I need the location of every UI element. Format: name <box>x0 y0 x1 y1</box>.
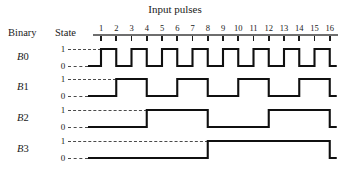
timing-diagram-figure: Input pulses Binary State 12345678910111… <box>0 0 347 170</box>
waveform-trace-b3 <box>0 0 347 170</box>
